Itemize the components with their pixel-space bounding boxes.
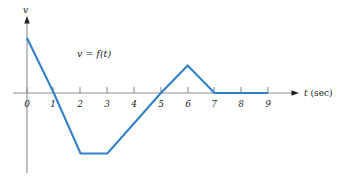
x-tick-label-1: 1	[45, 100, 61, 109]
plot-canvas	[0, 0, 341, 179]
x-tick-label-3: 3	[99, 100, 115, 109]
curve-equation-label: v = f(t)	[77, 49, 111, 59]
t-axis-arrowhead	[292, 90, 300, 96]
x-tick-label-4: 4	[126, 100, 142, 109]
velocity-time-figure: v v = f(t) t (sec) 0 1 2 3 4 5 6 7 8 9	[0, 0, 341, 179]
x-tick-label-7: 7	[206, 100, 222, 109]
x-tick-label-5: 5	[153, 100, 169, 109]
x-tick-label-6: 6	[180, 100, 196, 109]
x-tick-label-9: 9	[260, 100, 276, 109]
x-tick-label-8: 8	[233, 100, 249, 109]
x-tick-label-2: 2	[72, 100, 88, 109]
y-axis-label: v	[23, 6, 28, 15]
x-axis-label: t (sec)	[304, 89, 333, 98]
v-axis-arrowhead	[24, 16, 30, 24]
x-tick-label-0: 0	[19, 100, 35, 109]
velocity-curve	[27, 38, 268, 154]
